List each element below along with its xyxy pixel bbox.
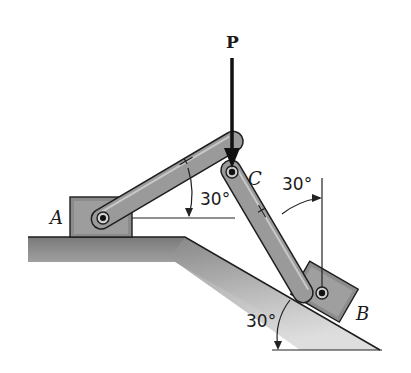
angle-arrowhead-cb bbox=[312, 194, 322, 202]
pin-c-label: C bbox=[248, 168, 262, 189]
block-b-label: B bbox=[355, 303, 369, 324]
angle-arrowhead-ac bbox=[185, 208, 193, 217]
angle-label-ac: 30° bbox=[200, 189, 230, 209]
force-label: P bbox=[226, 32, 239, 52]
pin-b bbox=[316, 287, 328, 299]
force-arrow-p bbox=[224, 58, 240, 168]
block-a-label: A bbox=[48, 207, 63, 228]
mechanism-diagram: P C A B 30° 30° 30° bbox=[0, 0, 411, 373]
angle-arrowhead-incline bbox=[274, 341, 282, 350]
pin-a bbox=[97, 212, 109, 224]
angle-label-incline: 30° bbox=[246, 311, 276, 331]
angle-label-cb: 30° bbox=[282, 174, 312, 194]
member-ac bbox=[88, 128, 247, 233]
